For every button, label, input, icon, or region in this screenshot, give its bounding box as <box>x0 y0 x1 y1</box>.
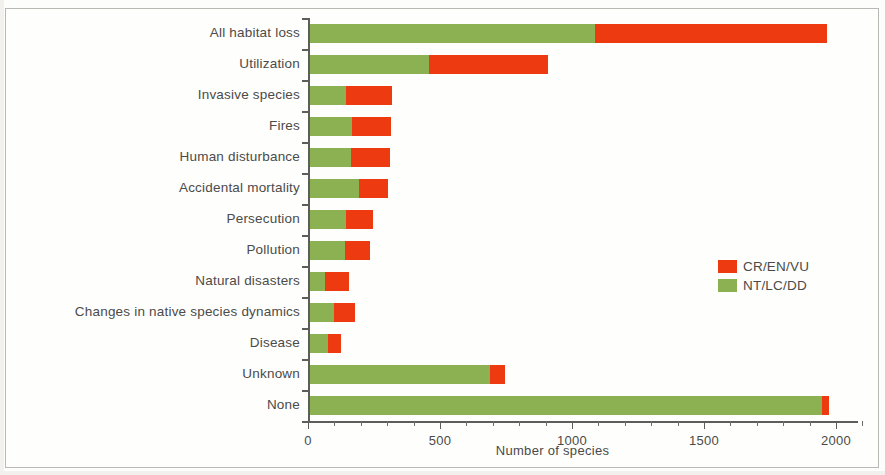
x-axis-major-tick <box>836 421 837 429</box>
category-label: Natural disasters <box>195 273 300 288</box>
y-axis-tick <box>302 297 310 299</box>
bar-segment-cr-en-vu <box>595 24 827 43</box>
y-axis-tick <box>302 111 310 113</box>
x-axis-major-tick <box>704 421 705 429</box>
x-axis-major-tick <box>308 421 309 429</box>
x-axis-title: Number of species <box>496 443 609 458</box>
legend-swatch-nt-lc-dd <box>718 279 737 292</box>
x-axis-minor-tick <box>598 421 599 426</box>
x-axis-minor-tick <box>414 421 415 426</box>
plot-area: 0500100015002000 <box>308 18 836 421</box>
bar-segment-cr-en-vu <box>328 334 341 353</box>
bar-segment-nt-lc-dd <box>310 179 359 198</box>
legend-label-cr-en-vu: CR/EN/VU <box>743 259 809 274</box>
x-axis-minor-tick <box>757 421 758 426</box>
x-axis-line <box>302 421 858 423</box>
x-axis-minor-tick <box>678 421 679 426</box>
y-axis-tick <box>302 235 310 237</box>
bar-segment-cr-en-vu <box>334 303 355 322</box>
y-axis-tick <box>302 266 310 268</box>
bar-segment-nt-lc-dd <box>310 210 346 229</box>
category-label: Pollution <box>246 242 300 257</box>
x-axis-minor-tick <box>546 421 547 426</box>
bar-segment-nt-lc-dd <box>310 148 351 167</box>
x-axis-title-wrap: Number of species <box>0 443 885 458</box>
x-axis-major-tick <box>572 421 573 429</box>
category-label: Fires <box>269 118 300 133</box>
x-axis-minor-tick <box>625 421 626 426</box>
category-label-column: All habitat lossUtilizationInvasive spec… <box>0 18 300 421</box>
bar-segment-nt-lc-dd <box>310 396 822 415</box>
bar-segment-cr-en-vu <box>429 55 548 74</box>
x-axis-minor-tick <box>466 421 467 426</box>
x-axis-minor-tick <box>519 421 520 426</box>
category-label: Human disturbance <box>180 149 300 164</box>
y-axis-tick <box>302 142 310 144</box>
bar-segment-nt-lc-dd <box>310 55 429 74</box>
y-axis-tick <box>302 390 310 392</box>
bar-segment-cr-en-vu <box>351 148 390 167</box>
bar-segment-cr-en-vu <box>352 117 391 136</box>
legend-swatch-cr-en-vu <box>718 260 737 273</box>
category-label: Accidental mortality <box>179 180 300 195</box>
category-label: Persecution <box>227 211 301 226</box>
bar-segment-cr-en-vu <box>325 272 349 291</box>
legend-item-cr-en-vu: CR/EN/VU <box>718 258 809 275</box>
x-axis-minor-tick <box>783 421 784 426</box>
bar-segment-cr-en-vu <box>490 365 505 384</box>
legend-label-nt-lc-dd: NT/LC/DD <box>743 278 807 293</box>
x-axis-minor-tick <box>651 421 652 426</box>
category-label: Invasive species <box>198 87 300 102</box>
y-axis-tick <box>302 80 310 82</box>
category-label: None <box>267 397 300 412</box>
chart-legend: CR/EN/VU NT/LC/DD <box>718 258 809 296</box>
bar-segment-nt-lc-dd <box>310 117 352 136</box>
category-label: Disease <box>250 335 300 350</box>
category-label: All habitat loss <box>210 25 300 40</box>
page-edge-bottom <box>0 471 885 475</box>
bar-segment-nt-lc-dd <box>310 303 334 322</box>
bar-segment-nt-lc-dd <box>310 24 595 43</box>
bar-segment-cr-en-vu <box>346 210 374 229</box>
y-axis-tick <box>302 49 310 51</box>
x-axis-minor-tick <box>334 421 335 426</box>
y-axis-tick <box>302 173 310 175</box>
figure-canvas: All habitat lossUtilizationInvasive spec… <box>0 0 885 475</box>
category-label: Utilization <box>239 56 300 71</box>
y-axis-tick <box>302 328 310 330</box>
bar-segment-nt-lc-dd <box>310 365 490 384</box>
bar-segment-nt-lc-dd <box>310 272 325 291</box>
bar-segment-cr-en-vu <box>346 86 392 105</box>
y-axis-tick <box>302 18 310 20</box>
bar-segment-cr-en-vu <box>345 241 370 260</box>
y-axis-tick <box>302 204 310 206</box>
category-label: Changes in native species dynamics <box>75 304 300 319</box>
x-axis-minor-tick <box>361 421 362 426</box>
bar-segment-nt-lc-dd <box>310 241 345 260</box>
x-axis-minor-tick <box>730 421 731 426</box>
x-axis-minor-tick <box>387 421 388 426</box>
x-axis-minor-tick <box>810 421 811 426</box>
x-axis-minor-tick <box>862 421 863 426</box>
bar-segment-cr-en-vu <box>822 396 829 415</box>
y-axis-tick <box>302 359 310 361</box>
x-axis-major-tick <box>440 421 441 429</box>
bar-segment-nt-lc-dd <box>310 334 328 353</box>
bar-segment-cr-en-vu <box>359 179 388 198</box>
legend-item-nt-lc-dd: NT/LC/DD <box>718 277 809 294</box>
category-label: Unknown <box>242 366 300 381</box>
bar-segment-nt-lc-dd <box>310 86 346 105</box>
x-axis-minor-tick <box>493 421 494 426</box>
